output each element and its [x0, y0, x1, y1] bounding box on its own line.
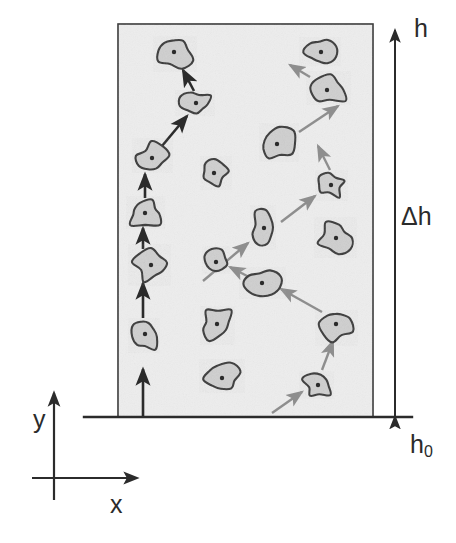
- x-axis-label: x: [110, 492, 123, 517]
- height-label-delta-h: Δh: [401, 204, 432, 229]
- figure-canvas: h Δh h0 y x: [0, 0, 456, 543]
- particle: [204, 248, 227, 271]
- particle-center-dot: [325, 88, 329, 92]
- particle-center-dot: [329, 183, 333, 187]
- particle-center-dot: [334, 322, 338, 326]
- particle-center-dot: [194, 101, 198, 105]
- particle-center-dot: [319, 50, 323, 54]
- particle-center-dot: [143, 332, 147, 336]
- h0-subscript: 0: [424, 443, 433, 460]
- particle-center-dot: [316, 383, 320, 387]
- particle-center-dot: [172, 50, 176, 54]
- particle-center-dot: [150, 156, 154, 160]
- particle-center-dot: [220, 376, 224, 380]
- particle: [252, 209, 273, 246]
- particle-layer-diagram: [0, 0, 456, 543]
- particle-center-dot: [215, 322, 219, 326]
- particle-center-dot: [334, 236, 338, 240]
- particle-center-dot: [214, 260, 218, 264]
- particle-center-dot: [143, 211, 147, 215]
- particle-center-dot: [260, 281, 264, 285]
- height-label-h: h: [414, 16, 428, 41]
- particle-center-dot: [275, 142, 279, 146]
- h0-base: h: [410, 430, 424, 458]
- particle-center-dot: [212, 171, 216, 175]
- reference-level-label-h0: h0: [410, 432, 433, 460]
- particle-center-dot: [262, 226, 266, 230]
- particle-center-dot: [149, 263, 153, 267]
- y-axis-label: y: [33, 407, 46, 432]
